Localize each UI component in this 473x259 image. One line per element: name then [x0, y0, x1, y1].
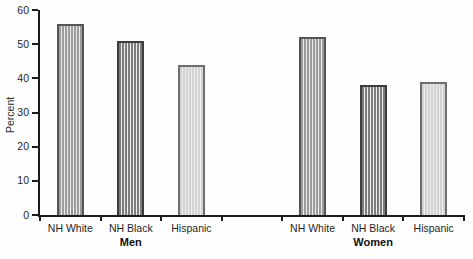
x-tick-3	[221, 215, 223, 221]
y-tick-label-0: 0	[4, 209, 29, 222]
y-tick-40	[32, 77, 38, 79]
x-tick-2	[160, 215, 162, 221]
x-tick-5	[342, 215, 344, 221]
bar-women-nh-black	[360, 85, 387, 215]
bar-women-hispanic	[420, 82, 447, 215]
bar-chart: Percent 0102030405060NH WhiteNH BlackHis…	[0, 0, 473, 259]
y-tick-label-10: 10	[4, 174, 29, 187]
plot-area: 0102030405060NH WhiteNH BlackHispanicNH …	[40, 10, 464, 215]
y-tick-20	[32, 146, 38, 148]
y-tick-label-30: 30	[4, 106, 29, 119]
y-tick-50	[32, 43, 38, 45]
x-tick-4	[281, 215, 283, 221]
x-tick-1	[100, 215, 102, 221]
x-tick-0	[39, 215, 41, 221]
y-tick-10	[32, 180, 38, 182]
bar-men-nh-white	[57, 24, 84, 215]
x-tick-6	[402, 215, 404, 221]
x-axis-line	[38, 215, 464, 217]
x-category-label-women-hispanic: Hispanic	[403, 222, 464, 234]
y-tick-60	[32, 9, 38, 11]
y-tick-label-60: 60	[4, 4, 29, 17]
x-category-label-men-nh-white: NH White	[40, 222, 101, 234]
y-tick-0	[32, 214, 38, 216]
bar-women-nh-white	[299, 37, 326, 215]
y-tick-30	[32, 112, 38, 114]
x-category-label-men-hispanic: Hispanic	[161, 222, 222, 234]
y-tick-label-20: 20	[4, 140, 29, 153]
group-label-men: Men	[101, 236, 162, 248]
x-tick-7	[463, 215, 465, 221]
group-label-women: Women	[343, 236, 404, 248]
bar-men-hispanic	[178, 65, 205, 215]
x-category-label-women-nh-black: NH Black	[343, 222, 404, 234]
bar-men-nh-black	[117, 41, 144, 215]
y-axis-line	[38, 10, 40, 217]
x-category-label-men-nh-black: NH Black	[101, 222, 162, 234]
x-category-label-women-nh-white: NH White	[282, 222, 343, 234]
y-tick-label-50: 50	[4, 38, 29, 51]
y-tick-label-40: 40	[4, 72, 29, 85]
